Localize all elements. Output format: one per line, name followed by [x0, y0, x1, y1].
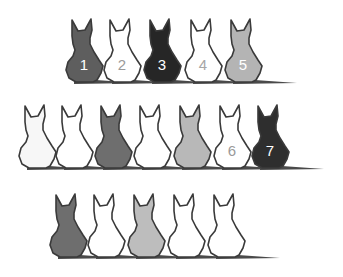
- cat-silhouette-icon: [88, 194, 125, 257]
- cat-1-5: 5: [225, 19, 262, 82]
- cat-2-5: [174, 105, 211, 168]
- cat-number-label: 2: [118, 56, 126, 73]
- cat-3-3: [128, 194, 165, 257]
- cat-silhouette-icon: [174, 105, 211, 168]
- cat-1-1: 1: [66, 19, 103, 82]
- cat-silhouette-icon: [128, 194, 165, 257]
- cat-silhouette-icon: [50, 194, 87, 257]
- cat-1-4: 4: [185, 19, 222, 82]
- cat-number-label: 6: [228, 142, 236, 159]
- cat-silhouette-icon: [134, 105, 171, 168]
- cat-figure: 1234567: [0, 0, 343, 277]
- cat-3-2: [88, 194, 125, 257]
- cat-number-label: 5: [239, 56, 247, 73]
- cat-rows: 1234567: [19, 19, 324, 259]
- cat-2-6: 6: [214, 105, 251, 168]
- cat-3-4: [168, 194, 205, 257]
- row-3: [50, 194, 280, 259]
- cat-3-1: [50, 194, 87, 257]
- cat-number-label: 4: [199, 56, 207, 73]
- row-1: 12345: [66, 19, 297, 84]
- cat-silhouette-icon: [95, 105, 132, 168]
- cat-2-7: 7: [252, 105, 289, 168]
- cat-number-label: 3: [158, 56, 166, 73]
- cat-silhouette-icon: [56, 105, 93, 168]
- cat-2-2: [56, 105, 93, 168]
- cat-1-3: 3: [144, 19, 181, 82]
- row-2: 67: [19, 105, 324, 170]
- cat-number-label: 7: [266, 142, 274, 159]
- cat-number-label: 1: [80, 56, 88, 73]
- cat-2-3: [95, 105, 132, 168]
- cat-1-2: 2: [104, 19, 141, 82]
- cat-3-5: [208, 194, 245, 257]
- cat-silhouette-icon: [19, 105, 56, 168]
- cat-2-1: [19, 105, 56, 168]
- cat-2-4: [134, 105, 171, 168]
- cat-silhouette-icon: [208, 194, 245, 257]
- cat-silhouette-icon: [168, 194, 205, 257]
